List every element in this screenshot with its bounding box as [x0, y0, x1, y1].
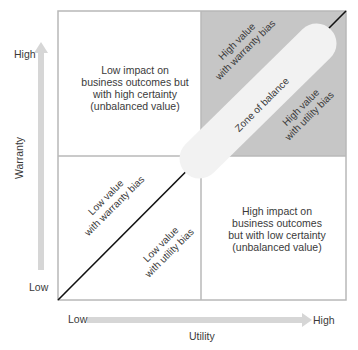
- text-line: with high certainty: [70, 88, 200, 100]
- warranty-arrow-shaft: [38, 52, 44, 270]
- utility-high-label: High: [313, 314, 335, 326]
- text-line: Low impact on: [70, 64, 200, 76]
- warranty-axis-title: Warranty: [13, 133, 25, 183]
- text-line: business outcomes but: [70, 76, 200, 88]
- text-line: but with low certainty: [217, 229, 337, 241]
- text-line: (unbalanced value): [70, 100, 200, 112]
- utility-axis-title: Utility: [189, 330, 215, 342]
- top-left-quadrant-text: Low impact on business outcomes but with…: [70, 64, 200, 112]
- warranty-low-label: Low: [29, 281, 48, 293]
- utility-arrow-head: [302, 313, 312, 327]
- utility-low-label: Low: [68, 313, 87, 325]
- warranty-arrow-head: [34, 42, 48, 53]
- quadrant-diagram-graphics: [0, 0, 358, 350]
- utility-arrow-shaft: [87, 317, 303, 323]
- bottom-right-quadrant-text: High impact on business outcomes but wit…: [217, 205, 337, 253]
- text-line: business outcomes: [217, 217, 337, 229]
- warranty-high-label: High: [14, 48, 36, 60]
- text-line: (unbalanced value): [217, 241, 337, 253]
- text-line: High impact on: [217, 205, 337, 217]
